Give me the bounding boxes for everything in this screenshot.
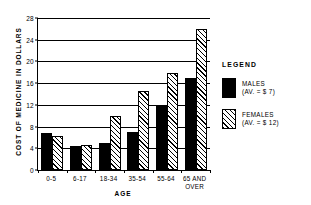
legend-series-average: (AV. = $ 12) <box>242 119 279 127</box>
bar-males <box>185 78 196 170</box>
x-tick-label-line: 65 AND <box>180 175 209 183</box>
bar-group <box>70 18 92 170</box>
bar-group <box>127 18 149 170</box>
x-tick-label-line: 35-54 <box>123 175 152 183</box>
legend-series-name: FEMALES <box>242 111 279 119</box>
y-tick-label: 8 <box>30 123 38 130</box>
y-tick-label: 4 <box>30 145 38 152</box>
bar-females <box>167 73 178 170</box>
bar-males <box>127 132 138 170</box>
bar-males <box>41 133 52 170</box>
bar-group <box>156 18 178 170</box>
bar-males <box>70 146 81 170</box>
x-tick-label: 65 ANDOVER <box>180 175 209 190</box>
y-axis-title: COST OF MEDICINE IN DOLLARS <box>15 17 22 167</box>
bar-group <box>99 18 121 170</box>
x-tick-mark <box>124 170 125 173</box>
legend-title: LEGEND <box>222 61 308 68</box>
legend-item-females: FEMALES(AV. = $ 12) <box>222 109 308 129</box>
bar-males <box>156 105 167 170</box>
legend-series-name: MALES <box>242 80 275 88</box>
x-tick-label-line: 6-17 <box>66 175 95 183</box>
x-tick-label: 6-17 <box>66 175 95 183</box>
plot-area: 0481216202428 <box>37 18 210 171</box>
x-tick-mark <box>210 170 211 173</box>
y-tick-label: 12 <box>26 101 38 108</box>
legend-label-females: FEMALES(AV. = $ 12) <box>242 109 279 128</box>
y-tick-label: 16 <box>26 80 38 87</box>
legend-series-average: (AV. = $ 7) <box>242 88 275 96</box>
bar-females <box>81 145 92 170</box>
x-tick-mark <box>67 170 68 173</box>
x-tick-mark <box>181 170 182 173</box>
legend-label-males: MALES(AV. = $ 7) <box>242 78 275 97</box>
legend: LEGEND MALES(AV. = $ 7)FEMALES(AV. = $ 1… <box>222 61 308 140</box>
legend-entries: MALES(AV. = $ 7)FEMALES(AV. = $ 12) <box>222 78 308 129</box>
bar-females <box>196 29 207 170</box>
bar-group <box>185 18 207 170</box>
x-tick-label: 0-5 <box>37 175 66 183</box>
bar-group <box>41 18 63 170</box>
bar-females <box>138 91 149 170</box>
x-tick-label: 18-34 <box>94 175 123 183</box>
x-tick-mark <box>95 170 96 173</box>
x-tick-label-line: 0-5 <box>37 175 66 183</box>
y-tick-label: 24 <box>26 36 38 43</box>
legend-swatch-males <box>222 78 236 98</box>
y-tick-label: 20 <box>26 58 38 65</box>
x-tick-label-line: 18-34 <box>94 175 123 183</box>
legend-item-males: MALES(AV. = $ 7) <box>222 78 308 98</box>
bar-groups <box>38 18 210 170</box>
x-tick-mark <box>153 170 154 173</box>
bar-females <box>110 116 121 170</box>
x-tick-mark <box>38 170 39 173</box>
bar-males <box>99 143 110 170</box>
bar-females <box>52 136 63 170</box>
bar-chart: COST OF MEDICINE IN DOLLARS 048121620242… <box>0 0 311 205</box>
x-axis-title: AGE <box>37 190 209 197</box>
y-tick-label: 28 <box>26 15 38 22</box>
x-tick-label-line: 55-64 <box>152 175 181 183</box>
y-tick-label: 0 <box>30 167 38 174</box>
x-tick-label: 55-64 <box>152 175 181 183</box>
x-tick-label: 35-54 <box>123 175 152 183</box>
legend-swatch-females <box>222 109 236 129</box>
